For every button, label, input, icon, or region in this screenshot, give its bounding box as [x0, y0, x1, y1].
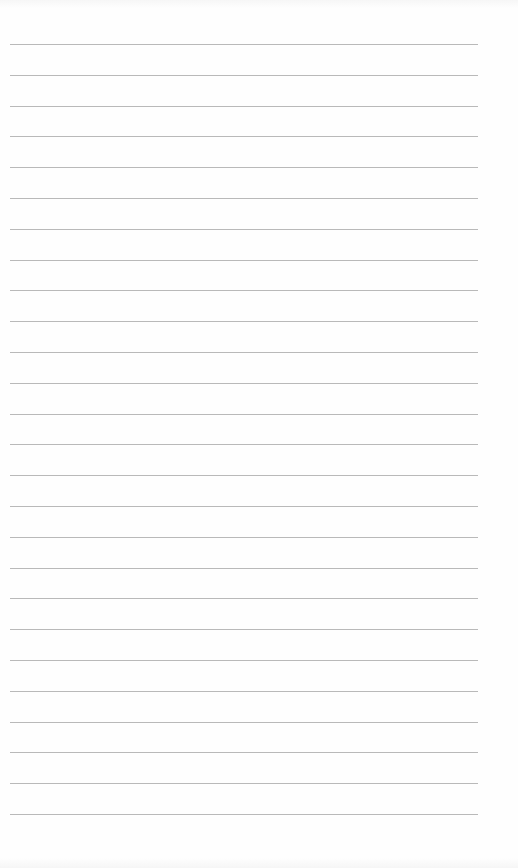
ruled-line [10, 167, 478, 168]
ruled-line [10, 75, 478, 76]
ruled-line [10, 629, 478, 630]
ruled-line [10, 383, 478, 384]
lined-paper-page [0, 0, 518, 868]
ruled-line [10, 260, 478, 261]
ruled-line [10, 568, 478, 569]
ruled-line [10, 506, 478, 507]
ruled-line [10, 598, 478, 599]
ruled-line [10, 136, 478, 137]
ruled-line [10, 814, 478, 815]
ruled-line [10, 352, 478, 353]
ruled-line [10, 106, 478, 107]
ruled-line [10, 44, 478, 45]
top-edge-bleed [0, 0, 518, 8]
ruled-line [10, 752, 478, 753]
ruled-line [10, 321, 478, 322]
ruled-line [10, 660, 478, 661]
ruled-line [10, 722, 478, 723]
ruled-line [10, 691, 478, 692]
ruled-line [10, 229, 478, 230]
ruled-line [10, 475, 478, 476]
ruled-line [10, 198, 478, 199]
ruled-line [10, 444, 478, 445]
ruled-line [10, 783, 478, 784]
ruled-line [10, 414, 478, 415]
ruled-line [10, 537, 478, 538]
bottom-edge-bleed [0, 858, 518, 868]
ruled-line [10, 290, 478, 291]
